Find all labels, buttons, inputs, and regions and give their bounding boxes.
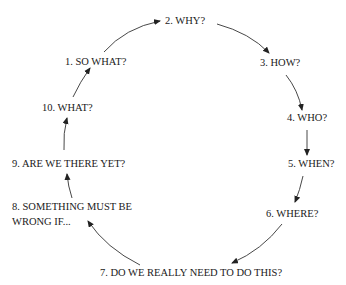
arrow-8-to-9 xyxy=(67,174,72,198)
arrow-2-to-3 xyxy=(217,24,269,53)
node-10-label: 10. WHAT? xyxy=(42,102,93,113)
arrow-10-to-1 xyxy=(73,68,90,97)
node-5-label: 5. WHEN? xyxy=(288,158,335,169)
node-8-label-line2: WRONG IF... xyxy=(12,216,71,227)
arrow-1-to-2 xyxy=(104,21,160,52)
node-7-label: 7. DO WE REALLY NEED TO DO THIS? xyxy=(100,267,282,278)
arrow-5-to-6 xyxy=(295,176,303,202)
node-4-label: 4. WHO? xyxy=(287,112,327,123)
question-cycle-diagram: 1. SO WHAT? 2. WHY? 3. HOW? 4. WHO? 5. W… xyxy=(0,0,346,285)
node-6-label: 6. WHERE? xyxy=(266,208,319,219)
arrow-9-to-10 xyxy=(64,118,67,150)
arrow-6-to-7 xyxy=(232,224,282,263)
node-1-label: 1. SO WHAT? xyxy=(65,56,127,67)
arrow-3-to-4 xyxy=(286,75,302,110)
arrow-7-to-8 xyxy=(88,221,140,265)
node-8-label-line1: 8. SOMETHING MUST BE xyxy=(12,201,132,212)
node-2-label: 2. WHY? xyxy=(165,15,205,26)
node-3-label: 3. HOW? xyxy=(260,57,301,68)
node-9-label: 9. ARE WE THERE YET? xyxy=(12,158,126,169)
